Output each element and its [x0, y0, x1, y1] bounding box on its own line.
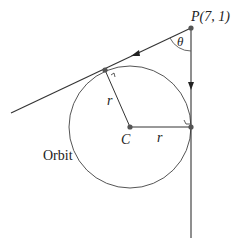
right-angle-marker-upper: [111, 73, 115, 77]
label-p: P(7, 1): [190, 9, 230, 25]
tangent-line-left: [11, 28, 191, 113]
tangent-point-left: [102, 67, 107, 72]
label-r-upper: r: [107, 93, 113, 108]
label-c: C: [121, 132, 131, 147]
right-angle-marker-right: [184, 120, 190, 124]
label-r-right: r: [157, 130, 163, 145]
arrow-left-icon: [131, 50, 140, 56]
arrow-down-icon: [188, 82, 194, 90]
point-p: [188, 25, 193, 30]
tangent-point-right: [188, 124, 193, 129]
label-theta: θ: [177, 34, 184, 49]
label-orbit: Orbit: [43, 148, 73, 163]
orbit-tangent-diagram: P(7, 1) θ r C r Orbit: [0, 0, 238, 239]
center-point: [127, 124, 132, 129]
